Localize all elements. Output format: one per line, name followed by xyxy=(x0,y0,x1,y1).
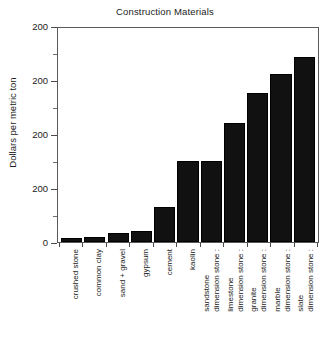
x-tick-label: dimension stone :sandstone xyxy=(202,249,221,312)
x-tick-label-line: limestone xyxy=(226,249,236,312)
bar xyxy=(177,161,198,242)
x-tick-label: dimension stone :granite xyxy=(249,249,268,312)
x-tick-label-line: dimension stone : xyxy=(282,249,292,312)
x-tick-label-slot: kaolin xyxy=(177,249,198,349)
x-tick-label-line: kaolin xyxy=(188,249,198,270)
x-tick-label: dimension stone :slate xyxy=(296,249,315,312)
bar xyxy=(84,237,105,242)
x-tick xyxy=(153,243,154,247)
bar xyxy=(294,57,315,242)
x-tick-label: dimension stone :limestone xyxy=(226,249,245,312)
bar-chart-figure: Construction Materials Dollars per metri… xyxy=(0,0,330,349)
x-tick-label-slot: sand + gravel xyxy=(107,249,128,349)
x-tick-label: cement xyxy=(165,249,175,275)
bar-series xyxy=(58,28,318,242)
x-tick-label-line: gypsum xyxy=(141,249,151,277)
x-tick-label-slot: dimension stone :sandstone xyxy=(201,249,222,349)
x-tick-label-slot: dimension stone :limestone xyxy=(224,249,245,349)
x-tick xyxy=(317,243,318,247)
x-tick-label-slot: gypsum xyxy=(130,249,151,349)
x-tick-label-line: dimension stone : xyxy=(259,249,269,312)
x-tick-label-line: dimension stone : xyxy=(306,249,316,312)
x-tick-label-slot: dimension stone :marble xyxy=(271,249,292,349)
x-tick-label-line: granite xyxy=(249,249,259,312)
y-tick-major xyxy=(51,243,57,244)
x-tick-label: dimension stone :marble xyxy=(273,249,292,312)
bar xyxy=(61,238,82,242)
x-tick-label: crushed stone xyxy=(71,249,81,299)
x-tick-label: kaolin xyxy=(188,249,198,270)
bar xyxy=(201,161,222,242)
bar xyxy=(131,231,152,242)
y-tick-label: 200 xyxy=(2,129,48,140)
x-tick-label-line: cement xyxy=(165,249,175,275)
x-tick xyxy=(129,243,130,247)
x-tick-label-line: sandstone xyxy=(202,249,212,312)
bar xyxy=(154,207,175,242)
x-tick xyxy=(200,243,201,247)
x-tick-label: gypsum xyxy=(141,249,151,277)
x-tick-label-line: slate xyxy=(296,249,306,312)
x-tick xyxy=(294,243,295,247)
x-tick-label-slot: cement xyxy=(154,249,175,349)
x-tick-label: sand + gravel xyxy=(118,249,128,297)
x-tick xyxy=(270,243,271,247)
x-tick-label-line: dimension stone : xyxy=(212,249,222,312)
x-axis-tick-labels: crushed stonecommon claysand + gravelgyp… xyxy=(57,249,319,349)
x-tick-label-slot: dimension stone :slate xyxy=(295,249,316,349)
chart-title: Construction Materials xyxy=(0,6,330,17)
x-tick xyxy=(247,243,248,247)
x-tick-label: common clay xyxy=(94,249,104,296)
y-tick-label: 0 xyxy=(2,237,48,248)
y-tick-label: 200 xyxy=(2,183,48,194)
plot-area xyxy=(57,27,319,243)
x-tick xyxy=(176,243,177,247)
bar xyxy=(247,93,268,242)
x-tick-label-slot: crushed stone xyxy=(60,249,81,349)
x-tick-label-line: common clay xyxy=(94,249,104,296)
bar xyxy=(108,233,129,242)
x-tick-label-line: crushed stone xyxy=(71,249,81,299)
x-tick xyxy=(59,243,60,247)
x-tick xyxy=(106,243,107,247)
y-tick-label: 200 xyxy=(2,21,48,32)
bar xyxy=(270,74,291,242)
x-tick-label-line: sand + gravel xyxy=(118,249,128,297)
x-tick-label-slot: common clay xyxy=(84,249,105,349)
bar xyxy=(224,123,245,242)
x-tick-label-slot: dimension stone :granite xyxy=(248,249,269,349)
x-tick xyxy=(223,243,224,247)
x-tick-label-line: marble xyxy=(273,249,283,312)
y-tick-label: 200 xyxy=(2,75,48,86)
x-tick xyxy=(82,243,83,247)
x-tick-label-line: dimension stone : xyxy=(235,249,245,312)
